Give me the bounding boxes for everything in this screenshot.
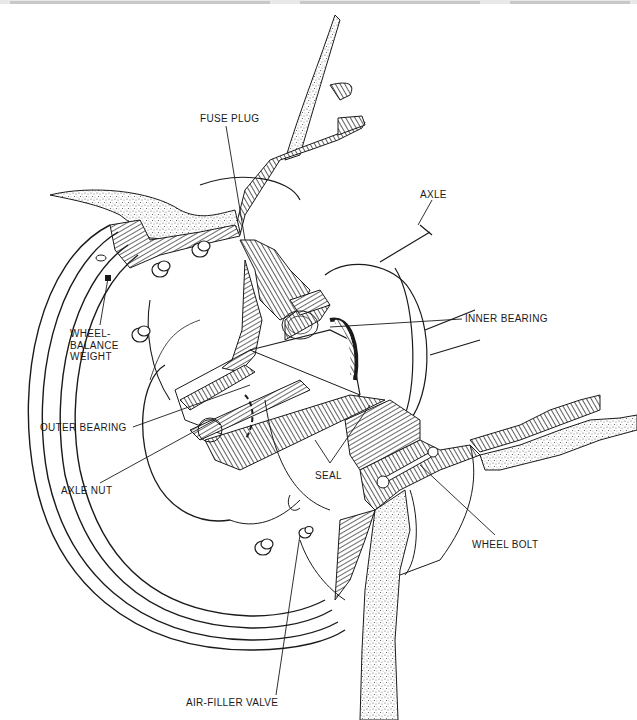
label-axle-nut: AXLE NUT <box>61 485 112 496</box>
label-wheel-bolt: WHEEL BOLT <box>472 539 538 550</box>
tire-right-section <box>470 395 637 470</box>
stud <box>152 261 170 277</box>
leader-wheel-bolt <box>420 465 495 535</box>
stud <box>132 326 150 342</box>
label-air-filler-valve: AIR-FILLER VALVE <box>186 697 278 708</box>
wheel-assembly-diagram: FUSE PLUG AXLE INNER BEARING WHEEL- BALA… <box>0 0 637 720</box>
leader-axle <box>418 200 432 225</box>
stud <box>299 527 313 539</box>
stud <box>255 539 273 555</box>
tire-upper <box>235 15 365 235</box>
label-outer-bearing: OUTER BEARING <box>40 422 127 433</box>
label-wheel-balance-weight: WHEEL- BALANCE WEIGHT <box>70 328 119 363</box>
leader-seal-a <box>315 440 330 463</box>
tire-left-section <box>50 190 240 268</box>
label-seal: SEAL <box>315 470 342 481</box>
label-fuse-plug: FUSE PLUG <box>200 113 259 124</box>
leader-air-filler-valve <box>276 535 300 695</box>
label-inner-bearing: INNER BEARING <box>465 313 548 324</box>
label-axle: AXLE <box>420 189 447 200</box>
lower-rim-section <box>335 400 480 720</box>
